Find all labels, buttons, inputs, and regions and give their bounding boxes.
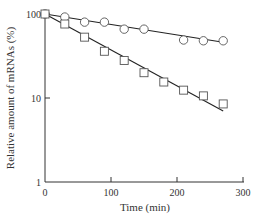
- square-marker: [81, 33, 89, 41]
- square-marker: [41, 10, 49, 18]
- x-tick-label: 300: [236, 187, 251, 198]
- y-ticks: 110100: [26, 9, 50, 188]
- x-axis-label: Time (min): [120, 201, 170, 214]
- circle-marker: [199, 37, 207, 45]
- square-marker: [100, 47, 108, 55]
- square-marker: [160, 78, 168, 86]
- circle-marker: [120, 25, 128, 33]
- circle-marker: [80, 18, 88, 26]
- y-tick-label: 10: [31, 93, 41, 104]
- x-ticks: 0100200300: [43, 177, 251, 198]
- y-tick-label: 1: [36, 177, 41, 188]
- square-marker: [219, 100, 227, 108]
- fit-lines: [45, 14, 223, 111]
- circle-marker: [100, 18, 108, 26]
- square-marker: [199, 92, 207, 100]
- square-marker: [140, 69, 148, 77]
- x-tick-label: 0: [43, 187, 48, 198]
- data-markers: [41, 10, 228, 108]
- square-marker: [120, 56, 128, 64]
- x-tick-label: 200: [170, 187, 185, 198]
- y-axis-label: Relative amount of mRNAs (%): [4, 26, 17, 169]
- circle-marker: [179, 36, 187, 44]
- y-tick-label: 100: [26, 9, 41, 20]
- circle-marker: [219, 37, 227, 45]
- axes: [45, 14, 244, 182]
- mrna-decay-chart: 0100200300 110100 Time (min) Relative am…: [0, 0, 261, 222]
- circle-marker: [140, 25, 148, 33]
- square-marker: [180, 86, 188, 94]
- square-marker: [61, 20, 69, 28]
- x-tick-label: 100: [104, 187, 119, 198]
